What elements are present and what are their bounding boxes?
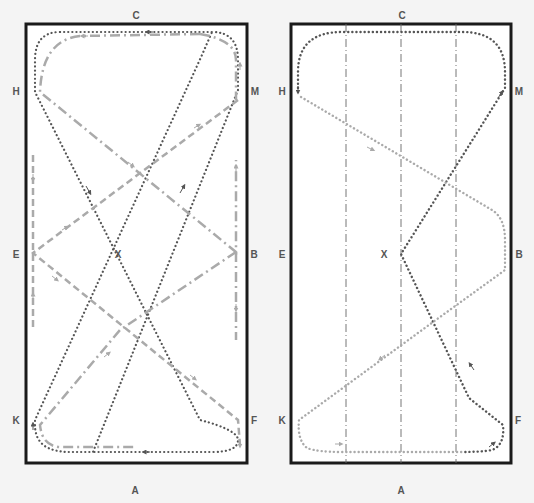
right-arena: C A H E K M B F X — [267, 0, 534, 503]
left-arena: C A H E K M B F X — [0, 0, 267, 503]
right-arena-diagram — [267, 0, 534, 503]
letter-f: F — [515, 416, 521, 426]
left-arena-diagram — [0, 0, 267, 503]
letter-b: B — [515, 250, 522, 260]
letter-a: A — [131, 486, 138, 496]
letter-e: E — [13, 250, 20, 260]
letter-a: A — [397, 486, 404, 496]
letter-k: K — [278, 416, 285, 426]
letter-f: F — [251, 416, 257, 426]
arena-border — [26, 24, 247, 463]
letter-x: X — [381, 250, 388, 260]
letter-h: H — [278, 87, 285, 97]
letter-h: H — [12, 87, 19, 97]
letter-k: K — [12, 416, 19, 426]
letter-c: C — [398, 11, 405, 21]
letter-b: B — [250, 250, 257, 260]
letter-m: M — [251, 87, 259, 97]
letter-m: M — [515, 87, 523, 97]
letter-x: X — [115, 250, 122, 260]
letter-c: C — [132, 11, 139, 21]
letter-e: E — [279, 250, 286, 260]
